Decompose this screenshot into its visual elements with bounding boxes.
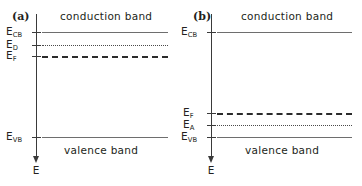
panel-a-letter: (a) bbox=[12, 11, 30, 22]
panel-a-tick-ef bbox=[32, 56, 41, 57]
panel-a-level-label-evb: EVB bbox=[6, 131, 22, 144]
panel-a-level-label-ef-sub: F bbox=[13, 55, 17, 63]
panel-a-energy-axis-label: E bbox=[26, 165, 46, 176]
panel-b-level-label-ef-main: E bbox=[183, 106, 190, 118]
panel-b-tick-ea bbox=[207, 125, 216, 126]
panel-b-tick-ecb bbox=[207, 32, 216, 33]
panel-a-level-line-ed bbox=[42, 45, 168, 46]
panel-b-level-label-ecb: ECB bbox=[181, 26, 197, 39]
panel-a-valence-band-label: valence band bbox=[64, 145, 138, 156]
panel-b-level-label-ea-main: E bbox=[183, 118, 190, 130]
panel-b-conduction-band-label: conduction band bbox=[241, 11, 333, 22]
panel-b-level-line-ecb bbox=[217, 32, 352, 33]
panel-b-level-label-evb: EVB bbox=[181, 131, 197, 144]
panel-a: (a) conduction band valence band E ECB E… bbox=[0, 0, 181, 186]
panel-b-level-line-evb bbox=[217, 137, 352, 138]
panel-b-tick-ef bbox=[207, 113, 216, 114]
panel-b-level-label-ecb-sub: CB bbox=[188, 31, 198, 39]
panel-b-tick-evb bbox=[207, 137, 216, 138]
panel-b-level-line-ea bbox=[217, 125, 352, 126]
panel-a-level-line-ecb bbox=[42, 32, 168, 33]
panel-b-level-label-ecb-main: E bbox=[181, 25, 188, 37]
panel-b-energy-axis-arrowhead bbox=[208, 156, 214, 163]
panel-a-level-line-evb bbox=[42, 137, 168, 138]
panel-a-level-label-ecb-main: E bbox=[6, 25, 13, 37]
panel-b-level-label-evb-sub: VB bbox=[188, 136, 198, 144]
panel-a-level-label-ef: EF bbox=[6, 50, 17, 63]
band-diagram-figure: (a) conduction band valence band E ECB E… bbox=[0, 0, 362, 186]
panel-a-level-label-ef-main: E bbox=[6, 49, 13, 61]
panel-a-tick-ed bbox=[32, 45, 41, 46]
panel-b-level-label-evb-main: E bbox=[181, 130, 188, 142]
panel-a-level-label-evb-main: E bbox=[6, 130, 13, 142]
panel-b-energy-axis-label: E bbox=[201, 165, 221, 176]
panel-a-tick-ecb bbox=[32, 32, 41, 33]
panel-a-level-label-evb-sub: VB bbox=[13, 136, 23, 144]
panel-a-tick-evb bbox=[32, 137, 41, 138]
panel-a-conduction-band-label: conduction band bbox=[60, 11, 152, 22]
panel-b: (b) conduction band valence band E ECB E… bbox=[181, 0, 362, 186]
panel-b-letter: (b) bbox=[193, 11, 211, 22]
panel-a-level-line-ef bbox=[42, 56, 168, 58]
panel-b-valence-band-label: valence band bbox=[245, 145, 319, 156]
panel-a-level-label-ecb-sub: CB bbox=[13, 31, 23, 39]
panel-a-energy-axis-arrowhead bbox=[33, 156, 39, 163]
panel-b-level-line-ef bbox=[217, 113, 352, 115]
